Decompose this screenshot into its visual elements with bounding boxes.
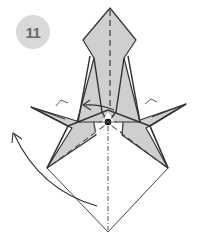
origami-diagram [0,0,199,242]
